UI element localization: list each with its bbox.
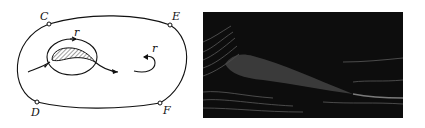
label-D: D [30,106,40,119]
starting-vortex [134,56,155,72]
label-E: E [171,10,180,23]
label-F: F [162,104,171,117]
vortex-arrow-icon [143,54,148,60]
diagram-svg: C E D F r r [0,0,200,128]
incoming-streamline [28,62,50,72]
point-F [158,101,162,105]
label-r-inner: r [74,26,80,39]
point-E [168,23,172,27]
streamline-photograph [203,12,403,118]
photo-svg [203,12,403,118]
point-D [35,100,39,104]
airfoil-shape [52,48,95,62]
airfoil-circulation-diagram: C E D F r r [0,0,200,128]
outer-contour [17,16,186,108]
label-r-vortex: r [152,42,158,55]
label-C: C [40,10,49,23]
